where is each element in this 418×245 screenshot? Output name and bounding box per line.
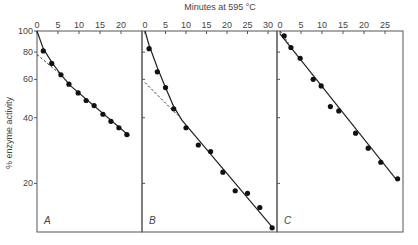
x-tick-label: 10 (317, 20, 327, 30)
data-point (366, 146, 371, 151)
y-tick-label: 20 (23, 178, 33, 188)
y-tick-label: 80 (23, 47, 33, 57)
x-tick-label: 15 (95, 20, 105, 30)
data-point (49, 61, 54, 66)
data-point (298, 56, 303, 61)
x-tick-label: 20 (116, 20, 126, 30)
panel-c: 0510152025C (277, 20, 403, 232)
x-tick-label: 20 (222, 20, 232, 30)
x-tick-label: 5 (298, 20, 303, 30)
panel-label: C (284, 215, 292, 226)
data-point (270, 225, 275, 230)
data-point (171, 106, 176, 111)
data-point (66, 82, 71, 87)
data-point (183, 125, 188, 130)
x-tick-label: 0 (277, 20, 282, 30)
data-point (288, 45, 293, 50)
data-point (257, 205, 262, 210)
data-point (155, 69, 160, 74)
x-tick-label: 30 (263, 20, 273, 30)
panel-label: B (149, 215, 156, 226)
x-tick-label: 0 (34, 20, 39, 30)
fit-curve (37, 31, 129, 136)
data-point (336, 108, 341, 113)
y-tick-label: 100 (18, 26, 33, 36)
data-point (196, 142, 201, 147)
data-point (147, 46, 152, 51)
x-tick-label: 20 (359, 20, 369, 30)
panels: 05101520A051015202530B0510152025C (34, 20, 403, 232)
panel-label: A (43, 215, 51, 226)
x-tick-label: 0 (142, 20, 147, 30)
data-point (328, 104, 333, 109)
fit-curve (280, 34, 398, 181)
data-point (245, 191, 250, 196)
data-point (41, 48, 46, 53)
data-point (208, 149, 213, 154)
data-point (319, 83, 324, 88)
x-tick-label: 15 (338, 20, 348, 30)
data-point (58, 72, 63, 77)
y-tick-label: 40 (23, 113, 33, 123)
panel-frame (142, 31, 277, 232)
data-point (395, 176, 400, 181)
data-point (353, 131, 358, 136)
panel-b: 051015202530B (142, 20, 277, 232)
y-tick-label: 60 (23, 74, 33, 84)
data-point (84, 98, 89, 103)
data-point (282, 33, 287, 38)
data-point (76, 90, 81, 95)
panel-frame (277, 31, 403, 232)
data-point (163, 85, 168, 90)
data-point (233, 188, 238, 193)
data-point (220, 170, 225, 175)
data-point (108, 119, 113, 124)
x-tick-label: 10 (74, 20, 84, 30)
data-point (116, 125, 121, 130)
data-point (311, 77, 316, 82)
x-tick-label: 25 (242, 20, 252, 30)
x-tick-label: 25 (380, 20, 390, 30)
data-point (378, 160, 383, 165)
y-axis-title: % enzyme activity (4, 96, 14, 169)
data-point (124, 132, 129, 137)
data-point (100, 112, 105, 117)
x-tick-label: 5 (163, 20, 168, 30)
x-tick-label: 5 (55, 20, 60, 30)
fit-curve (145, 31, 274, 229)
y-axis: 20406080100 (18, 26, 37, 188)
panel-a: 05101520A (34, 20, 142, 232)
x-tick-label: 15 (201, 20, 211, 30)
data-point (92, 103, 97, 108)
x-axis-title: Minutes at 595 °C (184, 2, 256, 12)
x-tick-label: 10 (181, 20, 191, 30)
chart: Minutes at 595 °C % enzyme activity 2040… (0, 0, 418, 245)
